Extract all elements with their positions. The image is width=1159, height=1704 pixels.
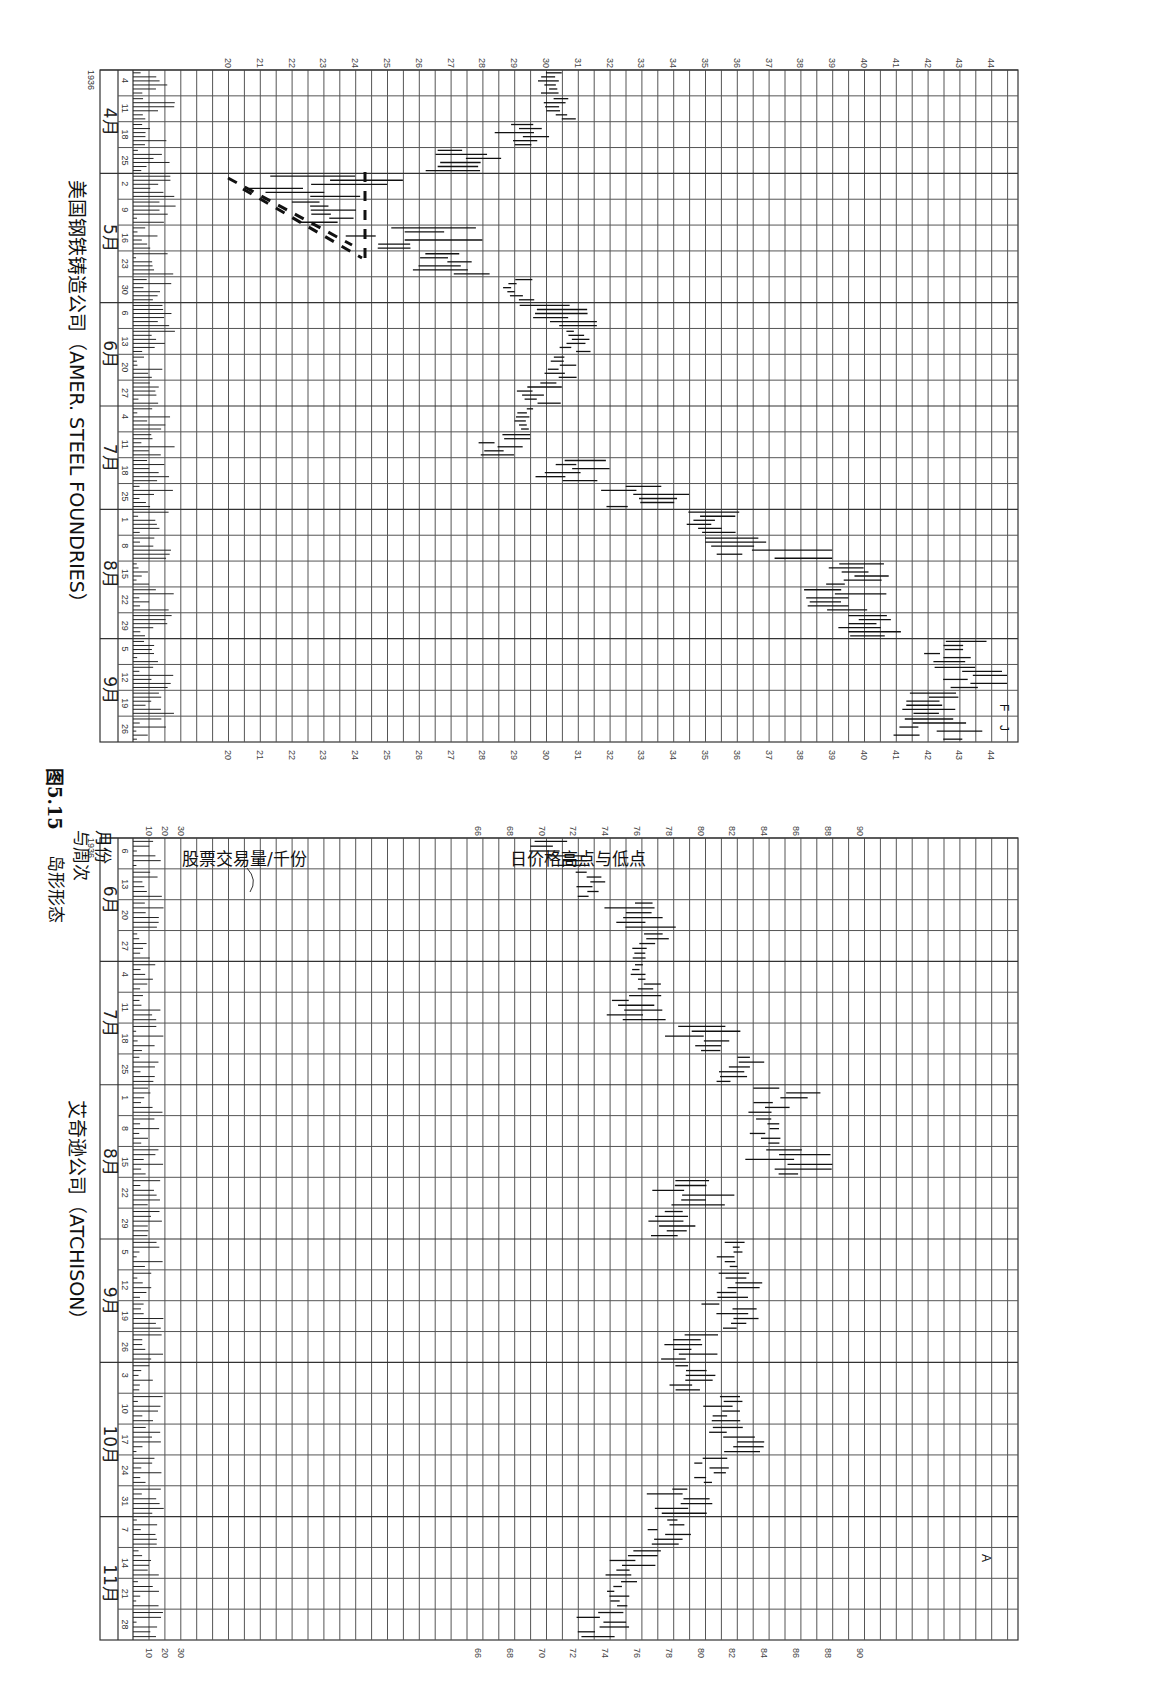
week-label: 5 [120, 647, 130, 652]
week-label: 28 [120, 1620, 130, 1630]
price-tick-label-top: 29 [509, 58, 519, 68]
price-tick-label-top: 90 [855, 826, 865, 836]
week-label: 24 [120, 1465, 130, 1475]
price-tick-label-bottom: 26 [414, 750, 424, 760]
month-label: 9月 [100, 676, 120, 704]
price-tick-label-top: 25 [382, 58, 392, 68]
price-tick-label-bottom: 66 [473, 1648, 483, 1658]
price-tick-label-bottom: 43 [954, 750, 964, 760]
price-tick-label-bottom: 24 [350, 750, 360, 760]
price-tick-label-top: 31 [573, 58, 583, 68]
price-tick-label-bottom: 74 [600, 1648, 610, 1658]
week-label: 8 [120, 543, 130, 548]
week-label: 4 [120, 972, 130, 977]
week-label: 13 [120, 879, 130, 889]
week-label: 18 [120, 466, 130, 476]
price-tick-label-top: 21 [255, 58, 265, 68]
label-week: 与周次 [71, 830, 91, 881]
price-tick-label-bottom: 90 [855, 1648, 865, 1658]
price-tick-label-top: 74 [600, 826, 610, 836]
volume-tick-label-top: 30 [176, 826, 186, 836]
price-tick-label-bottom: 39 [827, 750, 837, 760]
week-label: 25 [120, 1064, 130, 1074]
price-tick-label-bottom: 42 [923, 750, 933, 760]
chart-title-amer-steel: 美国钢铁铸造公司（AMER. STEEL FOUNDRIES） [66, 180, 88, 612]
week-label: 25 [120, 155, 130, 165]
month-label: 8月 [100, 1148, 120, 1176]
week-label: 29 [120, 1219, 130, 1229]
week-label: 14 [120, 1558, 130, 1568]
week-label: 27 [120, 941, 130, 951]
price-tick-label-bottom: 84 [759, 1648, 769, 1658]
week-label: 1 [120, 1095, 130, 1100]
price-tick-label-bottom: 72 [568, 1648, 578, 1658]
week-label: 15 [120, 1157, 130, 1167]
month-label: 6月 [100, 340, 120, 368]
week-label: 25 [120, 491, 130, 501]
week-label: 9 [120, 207, 130, 212]
week-label: 18 [120, 130, 130, 140]
annotation-marker-a: A [979, 1554, 993, 1562]
annotation-marker-j: J [997, 725, 1011, 731]
price-tick-label-top: 86 [791, 826, 801, 836]
week-label: 6 [120, 848, 130, 853]
price-tick-label-bottom: 80 [696, 1648, 706, 1658]
price-tick-label-top: 44 [986, 58, 996, 68]
price-tick-label-bottom: 40 [859, 750, 869, 760]
figure-caption-title: 岛形形态 [46, 855, 66, 923]
week-label: 20 [120, 910, 130, 920]
week-label: 19 [120, 1311, 130, 1321]
price-tick-label-top: 43 [954, 58, 964, 68]
week-label: 5 [120, 1249, 130, 1254]
price-tick-label-bottom: 28 [477, 750, 487, 760]
week-label: 26 [120, 724, 130, 734]
volume-tick-label-bottom: 30 [176, 1648, 186, 1658]
price-tick-label-bottom: 22 [287, 750, 297, 760]
price-tick-label-top: 28 [477, 58, 487, 68]
price-tick-label-top: 24 [350, 58, 360, 68]
week-label: 15 [120, 569, 130, 579]
label-volume: 股票交易量/千份 [182, 849, 307, 869]
price-tick-label-bottom: 20 [223, 750, 233, 760]
week-label: 13 [120, 336, 130, 346]
price-tick-label-bottom: 27 [446, 750, 456, 760]
week-label: 11 [120, 104, 130, 113]
price-tick-label-bottom: 32 [605, 750, 615, 760]
week-label: 22 [120, 1188, 130, 1198]
month-label: 4月 [100, 108, 120, 136]
chart-atchison: 6666686870707272747476767878808082828484… [86, 826, 1018, 1658]
month-label: 11月 [100, 1564, 120, 1603]
month-label: 6月 [100, 886, 120, 914]
price-tick-label-bottom: 31 [573, 750, 583, 760]
price-tick-label-bottom: 36 [732, 750, 742, 760]
week-label: 19 [120, 698, 130, 708]
label-price: 日价格高点与低点 [510, 849, 646, 869]
price-tick-label-bottom: 78 [664, 1648, 674, 1658]
price-tick-label-top: 20 [223, 58, 233, 68]
week-label: 18 [120, 1034, 130, 1044]
week-label: 10 [120, 1404, 130, 1414]
figure-caption-number: 图5.15 [44, 768, 65, 830]
week-label: 30 [120, 285, 130, 295]
price-tick-label-bottom: 76 [632, 1648, 642, 1658]
price-tick-label-top: 34 [668, 58, 678, 68]
volume-tick-label-top: 10 [144, 826, 154, 836]
price-tick-label-bottom: 70 [537, 1648, 547, 1658]
price-tick-label-top: 26 [414, 58, 424, 68]
week-label: 31 [120, 1496, 130, 1506]
week-label: 20 [120, 362, 130, 372]
year-label: 1936 [86, 70, 96, 90]
week-label: 3 [120, 1373, 130, 1378]
week-label: 16 [120, 233, 130, 243]
week-label: 23 [120, 259, 130, 269]
month-label: 7月 [100, 1009, 120, 1037]
price-tick-label-top: 23 [318, 58, 328, 68]
price-tick-label-bottom: 35 [700, 750, 710, 760]
price-tick-label-top: 70 [537, 826, 547, 836]
price-tick-label-top: 88 [823, 826, 833, 836]
week-label: 8 [120, 1126, 130, 1131]
volume-tick-label-bottom: 10 [144, 1648, 154, 1658]
week-label: 17 [120, 1435, 130, 1445]
price-tick-label-bottom: 33 [636, 750, 646, 760]
week-label: 21 [120, 1589, 130, 1599]
